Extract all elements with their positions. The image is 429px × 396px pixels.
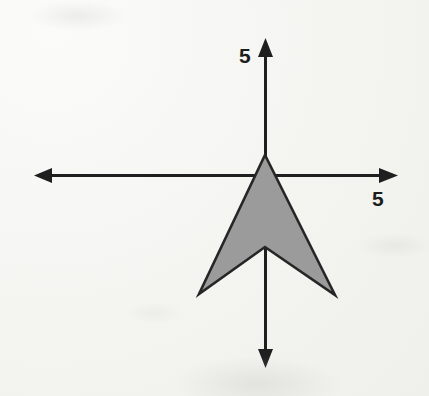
y-axis-tick-label-5: 5 (239, 45, 251, 66)
axes (34, 38, 398, 368)
coordinate-plane-figure (0, 0, 429, 396)
graph-paper-canvas: 5 5 (0, 0, 429, 396)
grid-horizontal-lines (45, 31, 405, 368)
x-axis-tick-label-5: 5 (372, 188, 384, 209)
x-axis-left-arrowhead (34, 168, 52, 183)
y-axis-top-arrowhead (258, 38, 273, 57)
y-axis-bottom-arrowhead (258, 349, 273, 368)
x-axis-right-arrowhead (379, 168, 398, 183)
grid-lines (45, 31, 406, 368)
